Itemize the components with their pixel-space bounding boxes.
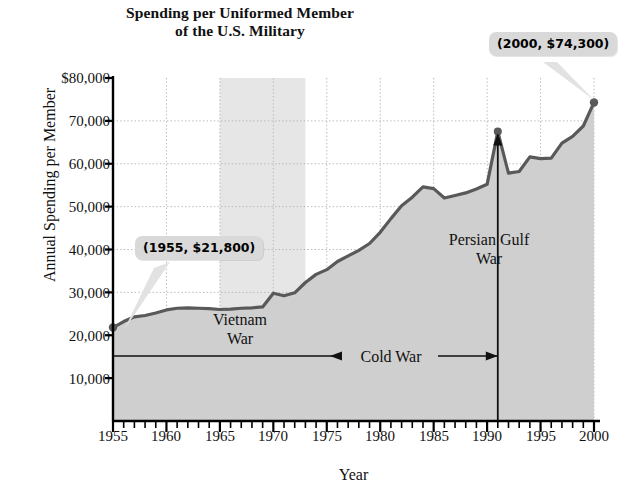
- annotation-vietnam-war: Vietnam War: [185, 310, 295, 348]
- vietnam-war-line1: Vietnam: [213, 311, 267, 328]
- annotation-cold-war: Cold War: [346, 347, 436, 366]
- annotation-persian-gulf-war: Persian Gulf War: [424, 230, 554, 268]
- persian-gulf-war-line2: War: [476, 250, 502, 267]
- data-point-2000: [590, 98, 598, 106]
- callout-end-leader: [543, 62, 594, 100]
- vietnam-war-line2: War: [227, 330, 253, 347]
- chart-figure: Spending per Uniformed Member of the U.S…: [0, 0, 635, 493]
- callout-end-point: (2000, $74,300): [489, 32, 617, 56]
- persian-gulf-war-line1: Persian Gulf: [449, 231, 529, 248]
- callout-start-point: (1955, $21,800): [135, 236, 263, 260]
